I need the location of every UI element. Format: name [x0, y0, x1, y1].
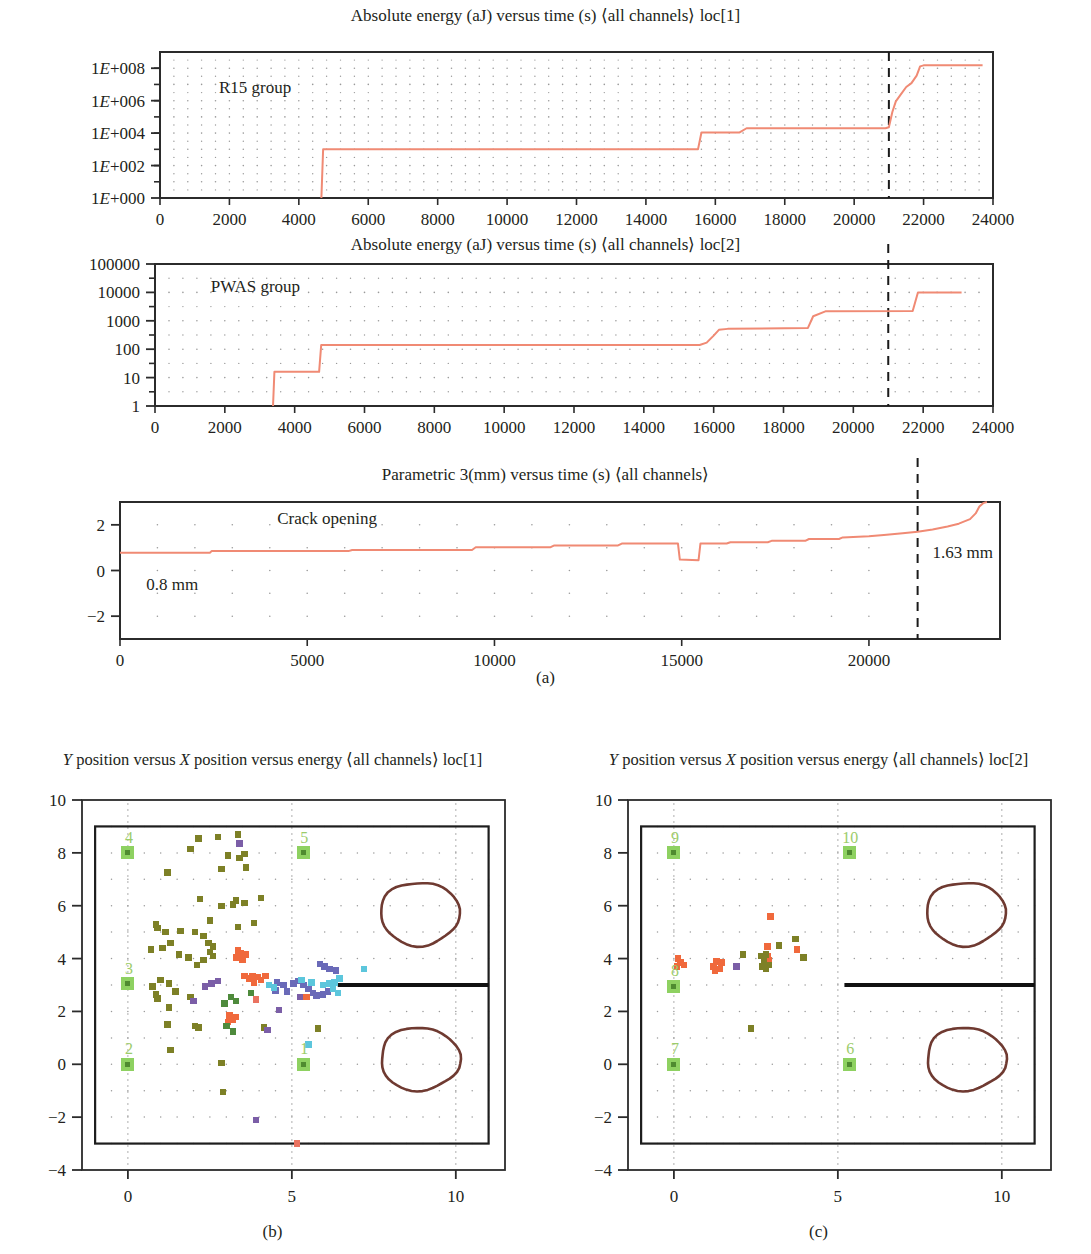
- ae-event-point: [258, 895, 265, 902]
- title-var-y: Y: [609, 750, 618, 769]
- y-tick-label: −2: [87, 607, 105, 626]
- ae-event-point: [164, 1021, 171, 1028]
- y-tick-label: −2: [594, 1108, 612, 1127]
- y-tick-label: 1E+002: [91, 157, 145, 176]
- sensor-label: 8: [671, 962, 679, 979]
- sensor-marker-core: [847, 1062, 852, 1067]
- x-tick-label: 8000: [421, 210, 455, 229]
- y-tick-label: 2: [58, 1002, 67, 1021]
- ae-event-point: [251, 920, 258, 927]
- ae-event-point: [276, 1007, 283, 1014]
- title-text-1: position versus: [618, 750, 726, 769]
- ae-event-point: [280, 982, 287, 989]
- x-tick-label: 12000: [553, 418, 596, 437]
- ae-event-point: [361, 966, 368, 973]
- ae-event-point: [740, 951, 747, 958]
- y-tick-label: 8: [604, 844, 613, 863]
- ae-event-point: [172, 988, 179, 995]
- sensor-label: 7: [671, 1040, 679, 1057]
- ae-event-point: [195, 835, 202, 842]
- y-tick-label: −2: [48, 1108, 66, 1127]
- chart-parametric-crack-opening: Parametric 3(mm) versus time (s) ⟨all ch…: [0, 462, 1091, 672]
- ae-event-point: [712, 967, 719, 974]
- chart-annotation: Crack opening: [277, 509, 377, 528]
- ae-event-point: [148, 946, 155, 953]
- y-tick-label: 0: [97, 562, 106, 581]
- ae-event-point: [162, 929, 169, 936]
- x-tick-label: 0: [124, 1187, 133, 1206]
- title-text-2: position versus energy ⟨all channels⟩ lo…: [190, 750, 482, 769]
- x-tick-label: 5: [834, 1187, 843, 1206]
- ae-event-point: [157, 977, 164, 984]
- x-tick-label: 0: [151, 418, 160, 437]
- ae-event-point: [166, 980, 173, 987]
- x-tick-label: 6000: [348, 418, 382, 437]
- ae-event-point: [167, 940, 174, 947]
- ae-event-point: [220, 1089, 227, 1096]
- sensor-marker-core: [125, 1062, 130, 1067]
- x-tick-label: 14000: [625, 210, 668, 229]
- ae-event-point: [733, 963, 740, 970]
- ae-event-point: [177, 928, 184, 935]
- panel-a: Absolute energy (aJ) versus time (s) ⟨al…: [0, 0, 1091, 710]
- ae-event-point: [264, 1027, 271, 1034]
- title-text-2: position versus energy ⟨all channels⟩ lo…: [736, 750, 1028, 769]
- ae-event-point: [176, 951, 183, 958]
- y-tick-label: 8: [58, 844, 67, 863]
- ae-event-point: [235, 831, 242, 838]
- ae-event-point: [308, 979, 315, 986]
- ae-event-point: [764, 943, 771, 950]
- ae-event-point: [236, 840, 243, 847]
- ae-event-point: [192, 1023, 199, 1029]
- chart-title: Absolute energy (aJ) versus time (s) ⟨al…: [0, 234, 1091, 255]
- ae-event-point: [154, 925, 161, 932]
- ae-event-point: [248, 990, 255, 997]
- x-tick-label: 2000: [208, 418, 242, 437]
- chart-absolute-energy-loc1: Absolute energy (aJ) versus time (s) ⟨al…: [0, 0, 1091, 225]
- sensor-marker-core: [125, 850, 130, 855]
- sensor-label: 1: [300, 1040, 308, 1057]
- ae-event-point: [766, 962, 773, 969]
- x-tick-label: 8000: [417, 418, 451, 437]
- ae-event-point: [187, 846, 194, 853]
- sensor-marker-core: [671, 984, 676, 989]
- subcaption-c: (c): [546, 1222, 1091, 1242]
- x-tick-label: 2000: [212, 210, 246, 229]
- ae-event-point: [194, 962, 201, 969]
- ae-event-point: [233, 954, 240, 961]
- ae-event-point: [284, 988, 291, 995]
- ae-event-point: [208, 980, 215, 987]
- ae-event-point: [767, 913, 774, 920]
- ae-event-point: [320, 982, 327, 989]
- ae-event-point: [164, 869, 171, 876]
- chart-annotation: 0.8 mm: [146, 575, 198, 594]
- ae-event-point: [251, 979, 258, 986]
- ae-event-point: [313, 992, 320, 999]
- x-tick-label: 0: [156, 210, 165, 229]
- y-tick-label: 10000: [98, 283, 141, 302]
- title-var-y: Y: [63, 750, 72, 769]
- x-tick-label: 22000: [902, 418, 945, 437]
- title-text-1: position versus: [72, 750, 180, 769]
- y-tick-label: 1E+006: [91, 92, 145, 111]
- panel-c: Y position versus X position versus ener…: [546, 750, 1091, 1254]
- ae-event-point: [794, 946, 801, 953]
- chart-annotation: R15 group: [219, 78, 291, 97]
- ae-event-point: [230, 1028, 237, 1035]
- ae-event-point: [159, 945, 166, 952]
- ae-event-point: [200, 957, 207, 964]
- ae-event-point: [185, 954, 192, 961]
- y-tick-label: 1E+008: [91, 59, 145, 78]
- y-tick-label: 1E+000: [91, 189, 145, 208]
- ae-event-point: [243, 864, 250, 871]
- x-tick-label: 10000: [483, 418, 526, 437]
- x-tick-label: 16000: [694, 210, 737, 229]
- y-tick-label: 2: [97, 516, 106, 535]
- ae-event-point: [210, 953, 217, 960]
- ae-event-point: [223, 1023, 230, 1029]
- y-tick-label: −4: [48, 1161, 67, 1180]
- sensor-label: 6: [846, 1040, 854, 1057]
- ae-event-point: [333, 967, 340, 974]
- sensor-marker-core: [125, 981, 130, 986]
- ae-event-point: [243, 951, 250, 958]
